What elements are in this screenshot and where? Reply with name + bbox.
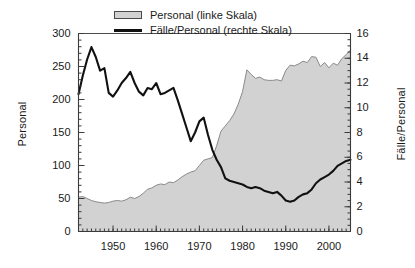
y-axis-left-tick: 200 [37,93,71,105]
y-axis-left-tick: 150 [37,126,71,138]
y-axis-right-tick: 4 [357,175,381,187]
x-axis-tick: 1970 [179,240,219,252]
personal-area-series [79,50,351,232]
y-axis-right-tick: 10 [357,101,381,113]
y-axis-left-tick: 0 [37,225,71,237]
y-axis-right-title: Fälle/Personal [395,72,407,176]
line-swatch-icon [113,29,143,32]
y-axis-right-tick: 0 [357,225,381,237]
y-axis-left-title: Personal [16,79,28,169]
legend-label-faelle-personal: Fälle/Personal (rechte Skala) [150,24,292,36]
y-axis-left-tick: 50 [37,192,71,204]
chart-legend: Personal (linke Skala) Fälle/Personal (r… [113,8,343,38]
x-axis-tick: 1960 [136,240,176,252]
legend-label-personal: Personal (linke Skala) [150,9,257,21]
x-axis-tick: 1980 [223,240,263,252]
legend-item-faelle-personal: Fälle/Personal (rechte Skala) [113,23,343,37]
area-swatch-icon [113,11,143,19]
y-axis-right-tick: 14 [357,51,381,63]
y-axis-right-tick: 12 [357,76,381,88]
x-axis-tick: 1950 [93,240,133,252]
chart-figure: Personal Fälle/Personal 0501001502002503… [0,0,415,268]
y-axis-right-tick: 2 [357,200,381,212]
y-axis-right-tick: 8 [357,126,381,138]
legend-item-personal: Personal (linke Skala) [113,8,343,22]
y-axis-left-tick: 300 [37,27,71,39]
y-axis-right-tick: 16 [357,27,381,39]
y-axis-right-tick: 6 [357,150,381,162]
x-axis-tick: 2000 [309,240,349,252]
x-axis-tick: 1990 [266,240,306,252]
y-axis-left-tick: 100 [37,159,71,171]
y-axis-left-tick: 250 [37,60,71,72]
